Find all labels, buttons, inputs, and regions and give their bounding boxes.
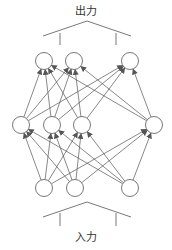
output-node [36,53,53,70]
connection-edge [76,133,81,179]
top-bracket [43,21,131,36]
hidden-node [44,117,61,134]
input-node [67,180,84,197]
connection-edge [48,68,77,117]
connection-edge [48,132,77,180]
output-node [122,53,139,70]
neural-network-diagram [0,0,172,250]
connection-edge [133,69,151,117]
hidden-node [13,117,30,134]
output-node [66,53,83,70]
connection-edge [51,129,146,184]
connection-edge [51,65,146,120]
nodes [13,53,163,197]
input-node [36,180,53,197]
hidden-node [146,117,163,134]
input-node [122,180,139,197]
bottom-bracket [43,202,131,217]
connection-edge [28,129,122,183]
connection-edge [24,133,41,180]
hidden-node [74,117,91,134]
connection-edge [55,133,72,180]
connection-edge [24,69,41,117]
